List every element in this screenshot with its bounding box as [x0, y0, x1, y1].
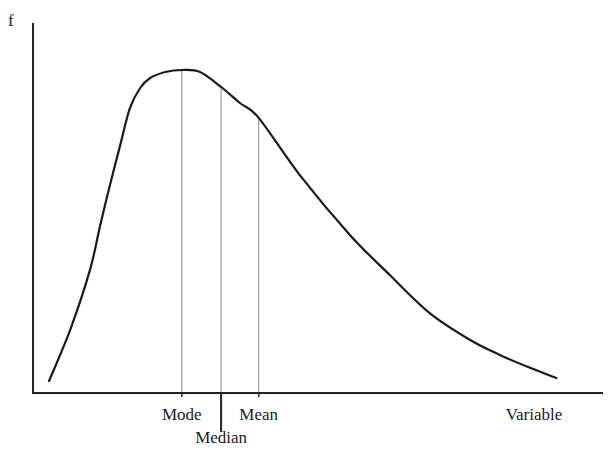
marker-label-mode: Mode: [162, 405, 202, 424]
x-axis-label: Variable: [506, 405, 563, 424]
marker-label-mean: Mean: [239, 405, 278, 424]
density-curve: [49, 70, 556, 381]
y-axis-label: f: [8, 11, 14, 30]
marker-label-median: Median: [195, 428, 247, 447]
marker-lines: [182, 70, 259, 432]
distribution-chart: f Variable ModeMedianMean: [0, 0, 610, 459]
